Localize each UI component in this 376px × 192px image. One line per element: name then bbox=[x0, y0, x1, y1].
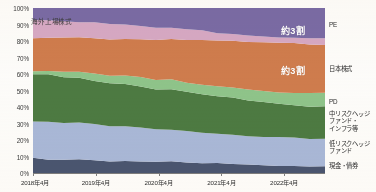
annotation-japan-equity-approx-30pct: 約3割 bbox=[281, 63, 305, 77]
y-tick-label: 100% bbox=[13, 5, 29, 12]
y-tick-label: 30% bbox=[17, 120, 29, 127]
legend-item-cash-bonds: 現金・債券 bbox=[329, 162, 358, 169]
x-tick-label: 2021年4月 bbox=[207, 178, 235, 187]
stacked-area-chart: 100% 90% 80% 70% 60% 50% 40% 30% 20% 10%… bbox=[0, 0, 376, 192]
x-tick-label: 2020年4月 bbox=[145, 178, 173, 187]
legend-item-japan-equity: 日本株式 bbox=[329, 65, 352, 72]
y-axis: 100% 90% 80% 70% 60% 50% 40% 30% 20% 10%… bbox=[0, 0, 33, 192]
y-tick-label: 80% bbox=[17, 38, 29, 45]
x-tick-mark bbox=[221, 173, 222, 176]
y-tick-label: 20% bbox=[17, 137, 29, 144]
y-tick-label: 10% bbox=[17, 153, 29, 160]
x-tick-label: 2018年4月 bbox=[21, 178, 49, 187]
y-tick-label: 90% bbox=[17, 21, 29, 28]
x-axis-line bbox=[33, 173, 325, 174]
y-tick-label: 0% bbox=[20, 170, 29, 177]
annotation-overseas-equity: 海外上場株式 bbox=[31, 16, 72, 26]
x-tick-mark bbox=[96, 173, 97, 176]
legend-item-mid-risk-hedge-fund-infra: 中リスクヘッジ ファンド・ インフラ等 bbox=[329, 110, 370, 132]
y-tick-label: 60% bbox=[17, 71, 29, 78]
annotation-pe-approx-30pct: 約3割 bbox=[281, 23, 305, 37]
x-tick-label: 2019年4月 bbox=[82, 178, 110, 187]
x-tick-mark bbox=[284, 173, 285, 176]
x-tick-mark bbox=[159, 173, 160, 176]
y-tick-label: 70% bbox=[17, 54, 29, 61]
legend-item-pd: PD bbox=[329, 98, 337, 105]
x-tick-label: 2022年4月 bbox=[270, 178, 298, 187]
legend: PE 日本株式 PD 中リスクヘッジ ファンド・ インフラ等 低リスクヘッジ フ… bbox=[329, 0, 376, 192]
y-tick-label: 40% bbox=[17, 104, 29, 111]
y-tick-label: 50% bbox=[17, 87, 29, 94]
legend-item-pe: PE bbox=[329, 21, 337, 28]
x-tick-mark bbox=[33, 173, 34, 176]
legend-item-low-risk-hedge-fund: 低リスクヘッジ ファンド bbox=[329, 140, 370, 155]
